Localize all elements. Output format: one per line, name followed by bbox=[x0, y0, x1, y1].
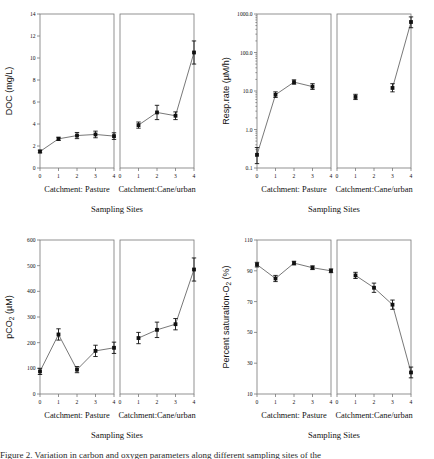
y-tick-label: 100 bbox=[27, 365, 36, 371]
x-tick-label: 3 bbox=[174, 173, 177, 179]
chart-panel-percent-saturation: 10305070901100011223344Percent saturatio… bbox=[217, 226, 434, 452]
y-axis-title: pCO2 (µM) bbox=[4, 295, 15, 338]
marker bbox=[409, 371, 413, 375]
chart-svg-pco2: 01002003004005006000011223344pCO2 (µM)Ca… bbox=[0, 226, 217, 452]
marker bbox=[391, 303, 395, 307]
data-point bbox=[273, 92, 277, 98]
data-point bbox=[112, 133, 116, 140]
marker bbox=[292, 80, 296, 84]
marker bbox=[391, 86, 395, 90]
group-label-cane-urban: Catchment:Cane/urban bbox=[118, 185, 196, 194]
data-point bbox=[173, 112, 177, 120]
marker bbox=[57, 333, 61, 337]
x-tick-label: 3 bbox=[311, 399, 314, 405]
data-point bbox=[155, 322, 159, 337]
y-tick-label: 500 bbox=[27, 263, 36, 269]
y-tick-label: 110 bbox=[244, 237, 252, 243]
group-label-pasture: Catchment: Pasture bbox=[261, 411, 327, 420]
data-point bbox=[390, 84, 394, 92]
x-axis-title: Sampling Sites bbox=[91, 204, 143, 214]
x-tick-label: 0 bbox=[119, 399, 122, 405]
marker bbox=[38, 370, 42, 374]
data-point bbox=[292, 261, 296, 265]
data-point bbox=[93, 131, 97, 138]
x-tick-label: 3 bbox=[311, 173, 314, 179]
y-tick-label: 50 bbox=[247, 329, 253, 335]
marker bbox=[174, 114, 178, 118]
series-line bbox=[393, 22, 412, 88]
data-point bbox=[192, 41, 196, 64]
group-label-pasture: Catchment: Pasture bbox=[44, 411, 110, 420]
chart-svg-doc: 024681012140011223344DOC (mg/L)Catchment… bbox=[0, 0, 217, 226]
marker bbox=[155, 111, 159, 115]
series-line bbox=[40, 334, 114, 371]
y-axis-title: Resp.rate (µM/h) bbox=[221, 57, 231, 125]
marker bbox=[38, 150, 42, 154]
series-line bbox=[257, 82, 313, 155]
marker bbox=[354, 274, 358, 278]
marker bbox=[94, 133, 98, 137]
plot-frame-left bbox=[257, 14, 331, 168]
data-point bbox=[155, 105, 159, 119]
data-point bbox=[353, 94, 357, 99]
x-tick-label: 0 bbox=[119, 173, 122, 179]
marker bbox=[192, 268, 196, 272]
data-point bbox=[292, 80, 296, 84]
x-tick-label: 1 bbox=[137, 399, 140, 405]
plot-frame-right bbox=[120, 240, 194, 394]
data-point bbox=[38, 368, 42, 374]
x-tick-label: 2 bbox=[293, 173, 296, 179]
marker bbox=[354, 95, 358, 99]
data-point bbox=[310, 84, 314, 90]
x-tick-label: 0 bbox=[39, 173, 42, 179]
marker bbox=[137, 123, 141, 127]
marker bbox=[112, 134, 116, 138]
plot-frame-left bbox=[40, 14, 114, 168]
data-point bbox=[372, 283, 376, 292]
data-point bbox=[329, 269, 333, 273]
x-tick-label: 0 bbox=[256, 399, 259, 405]
y-tick-label: 10 bbox=[247, 391, 253, 397]
y-tick-label: 10 bbox=[30, 55, 36, 61]
group-label-cane-urban: Catchment:Cane/urban bbox=[335, 411, 413, 420]
y-tick-label: 100.0 bbox=[240, 50, 253, 56]
x-tick-label: 4 bbox=[193, 173, 196, 179]
plot-frame-right bbox=[337, 14, 411, 168]
marker bbox=[112, 346, 116, 350]
x-tick-label: 0 bbox=[39, 399, 42, 405]
x-tick-label: 1 bbox=[354, 173, 357, 179]
y-tick-label: 0 bbox=[33, 391, 36, 397]
x-tick-label: 2 bbox=[76, 173, 79, 179]
x-axis-title: Sampling Sites bbox=[91, 430, 143, 440]
series-line bbox=[139, 270, 195, 339]
data-point bbox=[38, 150, 42, 154]
series-line bbox=[257, 263, 331, 278]
x-tick-label: 2 bbox=[373, 399, 376, 405]
x-tick-label: 3 bbox=[391, 399, 394, 405]
figure-panel-grid: 024681012140011223344DOC (mg/L)Catchment… bbox=[0, 0, 434, 459]
y-tick-label: 10.0 bbox=[243, 88, 253, 94]
y-tick-label: 4 bbox=[33, 121, 36, 127]
y-tick-label: 70 bbox=[247, 299, 253, 305]
y-tick-label: 30 bbox=[247, 360, 253, 366]
x-tick-label: 1 bbox=[57, 399, 60, 405]
x-tick-label: 4 bbox=[113, 399, 116, 405]
series-line bbox=[139, 53, 195, 126]
x-tick-label: 1 bbox=[57, 173, 60, 179]
y-tick-label: 8 bbox=[33, 77, 36, 83]
x-tick-label: 0 bbox=[336, 399, 339, 405]
x-tick-label: 4 bbox=[330, 399, 333, 405]
marker bbox=[274, 277, 278, 281]
marker bbox=[372, 286, 376, 290]
y-tick-label: 6 bbox=[33, 99, 36, 105]
marker bbox=[57, 137, 61, 141]
data-point bbox=[75, 132, 79, 138]
data-point bbox=[390, 300, 394, 309]
x-tick-label: 2 bbox=[156, 399, 159, 405]
x-tick-label: 2 bbox=[156, 173, 159, 179]
x-tick-label: 3 bbox=[391, 173, 394, 179]
chart-svg-resp: 0.11.010.0100.01000.00011223344Resp.rate… bbox=[217, 0, 434, 226]
x-tick-label: 2 bbox=[293, 399, 296, 405]
x-tick-label: 4 bbox=[330, 173, 333, 179]
y-tick-label: 300 bbox=[27, 314, 36, 320]
